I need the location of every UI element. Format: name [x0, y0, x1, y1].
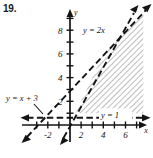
y-tick-label-6: 6: [58, 49, 63, 59]
y-tick-label-8: 8: [58, 26, 63, 36]
annotation-y-equals-2x: y = 2x: [82, 25, 105, 35]
y-equals-x-plus-3-arrowhead-down: [22, 135, 32, 143]
coordinate-plane: -2 2 4 6 2 4 6 8 y x y = 2x y = x + 3 y …: [0, 0, 153, 158]
y-equals-1-arrowhead-right: [142, 114, 151, 121]
annotation-y-equals-x-plus-3: y = x + 3: [5, 93, 38, 103]
y-equals-x-plus-3-arrowhead-up: [142, 4, 152, 12]
y-axis-arrowhead: [67, 9, 74, 17]
annotation-y-equals-1: y = 1: [100, 110, 119, 120]
y-equals-2x-arrowhead-up: [130, 5, 139, 13]
x-tick-label-6: 6: [123, 130, 128, 140]
y-equals-2x-arrowhead-down: [60, 137, 69, 145]
x-tick-label-4: 4: [101, 130, 106, 140]
y-tick-label-2: 2: [58, 97, 63, 107]
y-tick-label-4: 4: [58, 73, 63, 83]
graph-figure: 19.: [0, 0, 153, 158]
x-tick-label--2: -2: [44, 130, 52, 140]
annotation-leader-line: [34, 104, 43, 114]
x-tick-label-2: 2: [79, 130, 84, 140]
x-axis-label: x: [143, 126, 148, 135]
y-axis-label: y: [73, 8, 78, 17]
y-equals-1-arrowhead-left: [21, 114, 30, 121]
